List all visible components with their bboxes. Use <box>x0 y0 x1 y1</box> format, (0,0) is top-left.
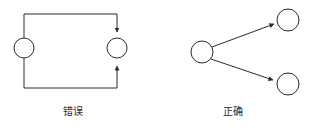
edge-correct-bottom <box>211 59 273 80</box>
figure-canvas: 错误 正确 <box>0 0 309 132</box>
caption-correct: 正确 <box>188 106 278 118</box>
node-wrong-source <box>14 38 34 58</box>
edge-correct-top <box>212 24 274 47</box>
node-correct-target-bottom <box>277 73 299 95</box>
panel-correct <box>191 9 299 95</box>
edge-wrong-bottom <box>24 58 117 88</box>
caption-wrong: 错误 <box>28 106 118 118</box>
node-correct-target-top <box>277 9 299 31</box>
edge-wrong-top <box>24 14 117 38</box>
node-correct-source <box>191 41 213 63</box>
node-wrong-target <box>107 38 127 58</box>
panel-wrong <box>14 14 127 88</box>
